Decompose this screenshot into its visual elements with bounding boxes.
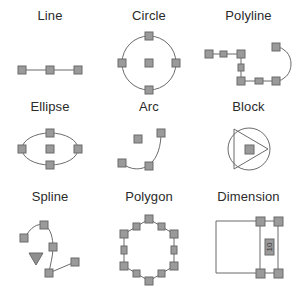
entity-cell-block: Block bbox=[198, 99, 299, 189]
polyline-entity-icon bbox=[200, 30, 298, 96]
grip-square-mid[interactable] bbox=[158, 223, 165, 230]
entity-figure-ellipse bbox=[0, 121, 100, 177]
grip-square[interactable] bbox=[45, 269, 53, 277]
grip-square[interactable] bbox=[40, 221, 48, 229]
grip-square[interactable] bbox=[237, 77, 245, 85]
entity-label-polyline: Polyline bbox=[198, 8, 299, 23]
spline-control-triangle-icon[interactable] bbox=[29, 253, 43, 265]
entity-label-polygon: Polygon bbox=[99, 189, 199, 204]
grip-square[interactable] bbox=[20, 234, 28, 242]
grip-square[interactable] bbox=[118, 59, 126, 67]
grip-square[interactable] bbox=[74, 66, 82, 74]
grip-square-center[interactable] bbox=[134, 135, 142, 143]
grip-square-mid[interactable] bbox=[255, 78, 263, 84]
grip-square[interactable] bbox=[49, 243, 57, 251]
entity-cell-polygon: Polygon bbox=[99, 189, 199, 299]
grip-square-mid[interactable] bbox=[171, 246, 177, 254]
entity-label-ellipse: Ellipse bbox=[0, 99, 100, 114]
grip-square-center[interactable] bbox=[145, 59, 153, 67]
entity-cell-arc: Arc bbox=[99, 99, 199, 189]
circle-entity-icon bbox=[104, 30, 194, 96]
grip-square-mid[interactable] bbox=[121, 246, 127, 254]
entity-label-circle: Circle bbox=[99, 8, 199, 23]
entity-figure-polyline bbox=[198, 30, 299, 96]
entity-label-block: Block bbox=[198, 99, 299, 114]
grip-square-center[interactable] bbox=[46, 145, 54, 153]
grip-square[interactable] bbox=[18, 145, 26, 153]
grip-square[interactable] bbox=[74, 145, 82, 153]
entity-grip-reference-grid: Line Circle bbox=[0, 0, 299, 303]
block-entity-icon bbox=[204, 121, 294, 177]
entity-label-line: Line bbox=[0, 8, 100, 23]
grip-square[interactable] bbox=[157, 129, 165, 137]
grip-square[interactable] bbox=[274, 269, 283, 278]
entity-figure-block bbox=[198, 121, 299, 177]
entity-cell-dimension: Dimension bbox=[198, 189, 299, 299]
grip-square[interactable] bbox=[120, 230, 128, 238]
entity-figure-spline bbox=[0, 213, 100, 289]
grip-square-mid[interactable] bbox=[220, 51, 227, 57]
grip-square[interactable] bbox=[172, 59, 180, 67]
grip-square[interactable] bbox=[170, 262, 178, 270]
grip-square[interactable] bbox=[237, 50, 245, 58]
grip-square[interactable] bbox=[170, 230, 178, 238]
grip-square[interactable] bbox=[46, 161, 54, 169]
grip-square[interactable] bbox=[205, 50, 213, 58]
grip-square[interactable] bbox=[145, 86, 153, 94]
grip-square[interactable] bbox=[120, 262, 128, 270]
ellipse-entity-icon bbox=[5, 121, 95, 177]
entity-figure-circle bbox=[99, 30, 199, 96]
grip-square[interactable] bbox=[272, 77, 280, 85]
entity-figure-arc bbox=[99, 121, 199, 177]
entity-cell-line: Line bbox=[0, 8, 100, 100]
entity-figure-line bbox=[0, 30, 100, 96]
grip-square[interactable] bbox=[274, 217, 283, 226]
grip-square[interactable] bbox=[118, 159, 126, 167]
grip-square[interactable] bbox=[256, 269, 265, 278]
grip-square-mid[interactable] bbox=[145, 162, 153, 170]
grip-square-mid[interactable] bbox=[133, 223, 140, 230]
entity-label-arc: Arc bbox=[99, 99, 199, 114]
grip-square-mid[interactable] bbox=[238, 64, 244, 71]
grip-square[interactable] bbox=[145, 32, 153, 40]
entity-cell-spline: Spline bbox=[0, 189, 100, 299]
grip-square[interactable] bbox=[46, 66, 54, 74]
dimension-entity-icon: 10 bbox=[202, 213, 296, 289]
grip-square[interactable] bbox=[18, 66, 26, 74]
grip-square-mid[interactable] bbox=[133, 270, 140, 277]
grip-square[interactable] bbox=[71, 258, 79, 266]
entity-label-dimension: Dimension bbox=[198, 189, 299, 204]
grip-square[interactable] bbox=[46, 129, 54, 137]
arc-entity-icon bbox=[104, 121, 194, 177]
spline-entity-icon bbox=[5, 213, 95, 289]
grip-square-center[interactable] bbox=[245, 145, 254, 154]
entity-figure-polygon bbox=[99, 213, 199, 289]
dimension-text: 10 bbox=[264, 242, 273, 251]
grip-square[interactable] bbox=[272, 43, 280, 51]
entity-cell-polyline: Polyline bbox=[198, 8, 299, 100]
grip-square[interactable] bbox=[145, 215, 153, 223]
entity-cell-circle: Circle bbox=[99, 8, 199, 100]
entity-label-spline: Spline bbox=[0, 189, 100, 204]
entity-figure-dimension: 10 bbox=[198, 213, 299, 289]
line-entity-icon bbox=[5, 30, 95, 96]
grip-square-mid[interactable] bbox=[158, 270, 165, 277]
grip-square[interactable] bbox=[145, 277, 153, 285]
entity-cell-ellipse: Ellipse bbox=[0, 99, 100, 189]
polygon-entity-icon bbox=[104, 213, 194, 289]
grip-square[interactable] bbox=[256, 217, 265, 226]
